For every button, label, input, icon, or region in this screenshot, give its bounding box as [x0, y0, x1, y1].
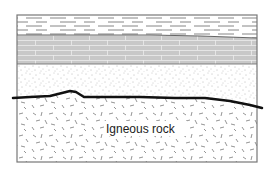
- geologic-cross-section-diagram: Igneous rock: [0, 0, 276, 174]
- limestone-layer: [17, 35, 257, 64]
- igneous-rock-label: Igneous rock: [106, 122, 176, 136]
